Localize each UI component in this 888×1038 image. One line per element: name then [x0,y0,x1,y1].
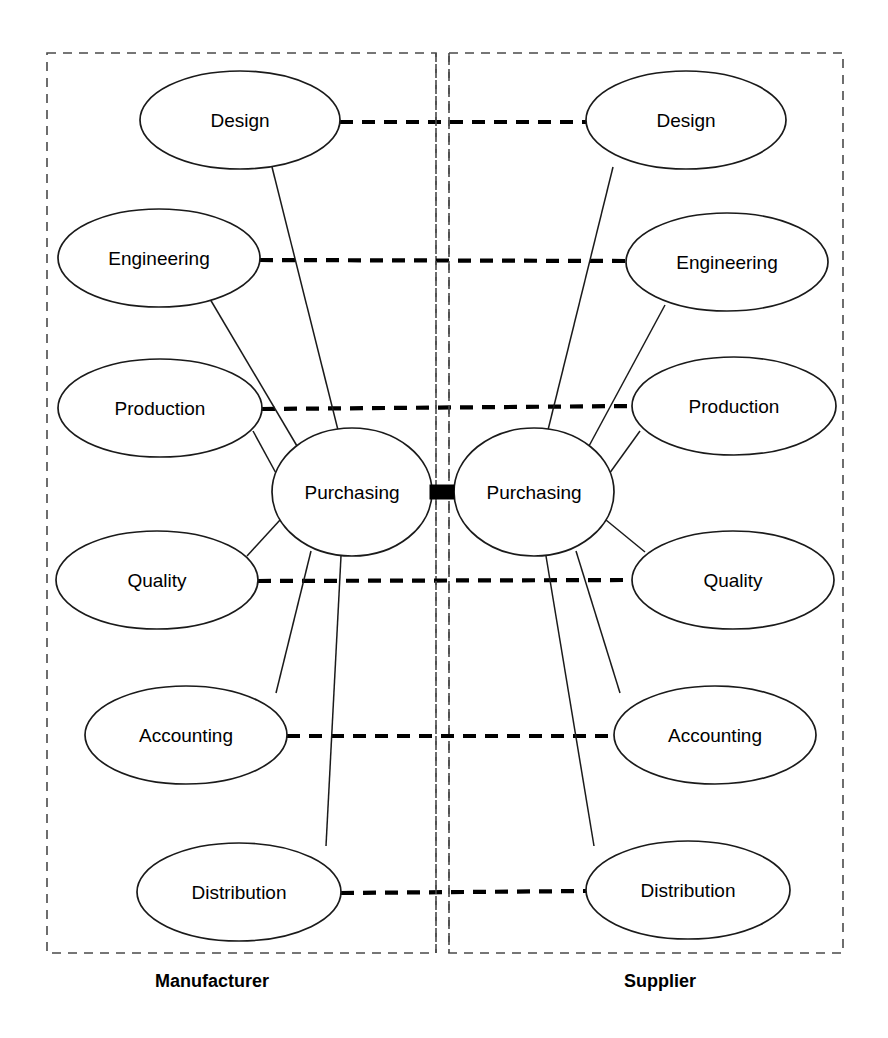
node-engineering-left[interactable]: Engineering [58,209,260,307]
node-design-right-label: Design [656,110,715,131]
node-accounting-left-label: Accounting [139,725,233,746]
caption-supplier: Supplier [624,971,696,991]
caption-manufacturer: Manufacturer [155,971,269,991]
node-distribution-left[interactable]: Distribution [137,843,341,941]
node-production-right[interactable]: Production [632,357,836,455]
link-production-icon [262,406,632,409]
panel-captions: Manufacturer Supplier [155,971,696,991]
spoke-left-accounting [276,551,311,693]
spoke-left-distribution [326,556,341,846]
spoke-right-design [547,167,613,434]
link-quality-icon [258,580,632,581]
node-quality-right[interactable]: Quality [632,531,834,629]
node-design-left-label: Design [210,110,269,131]
node-distribution-left-label: Distribution [191,882,286,903]
manufacturer-supplier-diagram: Design Engineering Production Quality Ac… [0,0,888,1038]
purchasing-interface-connector-icon [430,485,454,499]
node-purchasing-manufacturer-label: Purchasing [304,482,399,503]
node-accounting-left[interactable]: Accounting [85,686,287,784]
node-production-left[interactable]: Production [58,359,262,457]
node-engineering-right-label: Engineering [676,252,777,273]
node-engineering-left-label: Engineering [108,248,209,269]
node-accounting-right[interactable]: Accounting [614,686,816,784]
supplier-nodes: Design Engineering Production Quality Ac… [586,71,836,939]
link-distribution-icon [341,891,586,893]
node-quality-right-label: Quality [703,570,763,591]
node-design-left[interactable]: Design [140,71,340,169]
diagram-canvas: Design Engineering Production Quality Ac… [0,0,888,1038]
panel-boxes [47,53,843,953]
node-purchasing-supplier[interactable]: Purchasing [454,428,614,556]
panel-divider [436,53,449,953]
node-quality-left-label: Quality [127,570,187,591]
node-distribution-right-label: Distribution [640,880,735,901]
node-design-right[interactable]: Design [586,71,786,169]
node-distribution-right[interactable]: Distribution [586,841,790,939]
spoke-left-quality [247,520,280,556]
node-quality-left[interactable]: Quality [56,531,258,629]
link-engineering-icon [260,260,626,261]
spoke-right-quality [606,520,645,552]
node-purchasing-supplier-label: Purchasing [486,482,581,503]
spoke-right-distribution [546,556,594,846]
spoke-right-accounting [576,551,620,693]
node-production-right-label: Production [689,396,780,417]
spoke-right-production [609,431,640,474]
node-accounting-right-label: Accounting [668,725,762,746]
spoke-left-production [253,431,277,475]
spoke-left-design [272,167,339,434]
node-purchasing-manufacturer[interactable]: Purchasing [272,428,432,556]
node-engineering-right[interactable]: Engineering [626,213,828,311]
node-production-left-label: Production [115,398,206,419]
